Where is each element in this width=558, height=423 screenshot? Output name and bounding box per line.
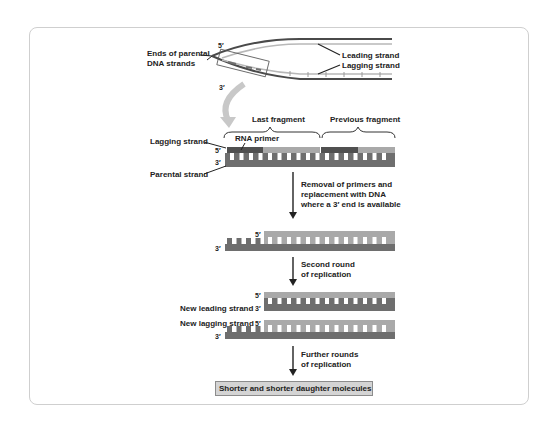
lagging-strand-label: Lagging strand bbox=[342, 61, 400, 70]
removal-5prime: 5′ bbox=[255, 231, 261, 238]
replication-fork: 5′ 3′ Ends of parental DNA strands Leadi… bbox=[147, 39, 400, 91]
lagging-3prime: 3′ bbox=[215, 333, 221, 340]
result-box: Shorter and shorter daughter molecules bbox=[215, 381, 373, 396]
step-3-line-1: Further rounds bbox=[301, 350, 359, 359]
parental-ends-label-line2: DNA strands bbox=[147, 59, 196, 68]
rna-primer-last bbox=[227, 147, 263, 153]
previous-fragment-label: Previous fragment bbox=[330, 115, 401, 124]
leading-strand-label: Leading strand bbox=[342, 51, 399, 60]
new-leading-strand-label: New leading strand bbox=[180, 304, 253, 313]
new-lagging-pair: 5′ 3′ New lagging strand bbox=[180, 319, 395, 340]
step-1-line-1: Removal of primers and bbox=[301, 180, 392, 189]
fork-5prime-label: 5′ bbox=[218, 42, 224, 49]
step-2: Second round of replication bbox=[289, 257, 355, 286]
step-2-line-2: of replication bbox=[301, 270, 351, 279]
leading-3prime: 3′ bbox=[255, 305, 261, 312]
lagging-5prime: 5′ bbox=[255, 320, 261, 327]
parental-strand-label: Parental strand bbox=[150, 170, 208, 179]
detail-5prime: 5′ bbox=[215, 147, 221, 154]
rna-primer-label: RNA primer bbox=[235, 134, 279, 143]
last-fragment-label: Last fragment bbox=[252, 115, 305, 124]
step-2-line-1: Second round bbox=[301, 260, 355, 269]
step-1-line-3: where a 3′ end is available bbox=[300, 200, 401, 209]
after-primer-removal: 5′ 3′ bbox=[215, 231, 395, 252]
rna-primer-previous bbox=[321, 147, 358, 153]
new-lagging-strand-label: New lagging strand bbox=[180, 319, 254, 328]
telomere-replication-diagram: 5′ 3′ Ends of parental DNA strands Leadi… bbox=[0, 0, 558, 423]
leading-5prime: 5′ bbox=[255, 292, 261, 299]
lagging-parental-detail: RNA primer Lagging strand Parental stran… bbox=[150, 134, 395, 179]
detail-3prime: 3′ bbox=[215, 159, 221, 166]
lagging-strand-detail-label: Lagging strand bbox=[150, 137, 208, 146]
step-3-line-2: of replication bbox=[301, 360, 351, 369]
step-1-line-2: replacement with DNA bbox=[301, 190, 386, 199]
new-leading-pair: 5′ 3′ New leading strand bbox=[180, 292, 395, 313]
step-1: Removal of primers and replacement with … bbox=[289, 172, 401, 219]
parental-ends-label-line1: Ends of parental bbox=[147, 49, 210, 58]
removal-3prime: 3′ bbox=[215, 245, 221, 252]
fork-3prime-label: 3′ bbox=[219, 84, 225, 91]
step-3: Further rounds of replication bbox=[289, 346, 359, 376]
